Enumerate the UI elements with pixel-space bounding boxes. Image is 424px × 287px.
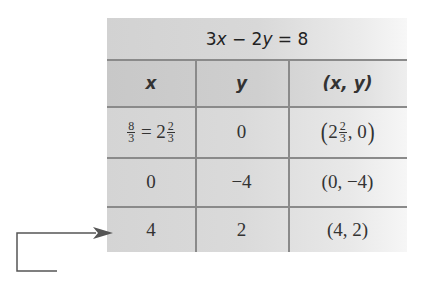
arrow-icon bbox=[0, 0, 424, 287]
